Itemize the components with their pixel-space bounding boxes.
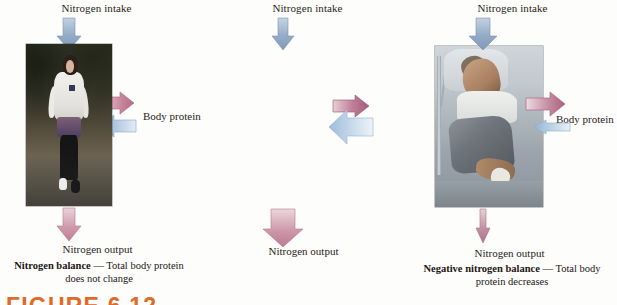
nitrogen-output-arrow: [57, 208, 81, 241]
body-protein-label: Body protein: [143, 110, 201, 122]
body-protein-out-arrow: [526, 92, 565, 116]
output-label: Nitrogen output: [410, 247, 615, 259]
body-protein-out-arrow: [333, 95, 369, 117]
figure-number: FIGURE 6.12: [6, 291, 157, 305]
nitrogen-output-arrow: [263, 209, 303, 247]
nitrogen-intake-arrow: [469, 18, 497, 50]
body-protein-in-arrow: [329, 110, 373, 144]
photo-woman-jogging: [26, 44, 112, 206]
panel-positive-nitrogen-balance: Nitrogen intake: [410, 0, 615, 305]
nitrogen-balance-figure: Nitrogen intake: [0, 0, 617, 305]
panel-caption: Nitrogen balance — Total body protein do…: [4, 259, 194, 285]
output-label: Nitrogen output: [205, 245, 410, 257]
panel-nitrogen-balance: Nitrogen intake: [0, 0, 205, 305]
body-protein-in-arrow: [534, 120, 570, 134]
caption-dash: —: [91, 260, 107, 271]
caption-term: Nitrogen balance: [14, 260, 91, 271]
panel-negative-nitrogen-balance: Nitrogen intake: [205, 0, 410, 305]
panel-2-arrows: [205, 0, 410, 305]
nitrogen-output-arrow: [476, 209, 490, 243]
output-label: Nitrogen output: [0, 243, 205, 255]
nitrogen-intake-arrow: [272, 18, 294, 50]
panel-3-arrows: [410, 0, 617, 305]
